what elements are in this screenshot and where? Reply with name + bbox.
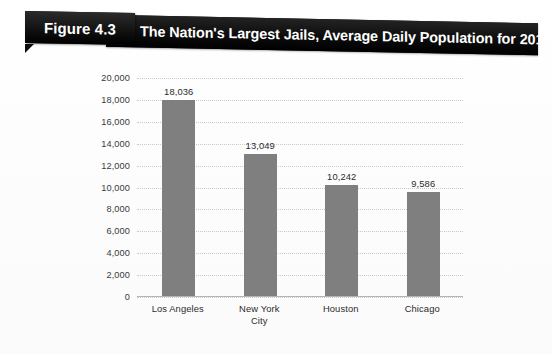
figure-banner: The Nation's Largest Jails, Average Dail… [0,0,552,64]
y-axis-tick: 4,000 [107,248,131,258]
y-axis-tick: 12,000 [101,161,130,171]
x-axis-line [137,296,463,297]
y-axis-tick: 2,000 [107,270,131,280]
y-axis-tick: 8,000 [107,204,131,214]
y-axis-tick: 10,000 [101,183,130,193]
banner-figure-tab: Figure 4.3 [25,11,135,45]
y-axis-tick-labels: 02,0004,0006,0008,00010,00012,00014,0001… [70,78,130,297]
bar-rect [244,154,277,297]
bar-rect [407,192,440,297]
bar[interactable]: 9,586 [407,192,440,297]
plot-area: 18,03613,04910,2429,586 [137,78,463,297]
x-axis-category-labels: Los AngelesNew York CityHoustonChicago [137,303,463,343]
y-axis-tick: 0 [125,292,130,302]
figure-title: The Nation's Largest Jails, Average Dail… [106,15,538,56]
x-axis-category: New York City [219,303,301,326]
figure-number-label: Figure 4.3 [25,11,135,45]
banner-title-band: The Nation's Largest Jails, Average Dail… [106,15,538,56]
bar[interactable]: 13,049 [244,154,277,297]
banner-fold-tail [25,44,34,53]
bar-value-label: 18,036 [164,86,193,100]
bar-value-label: 10,242 [327,171,356,185]
bar-rect [162,100,195,297]
x-axis-category: Los Angeles [137,303,219,315]
bar-chart: 02,0004,0006,0008,00010,00012,00014,0001… [0,64,552,354]
bar-value-label: 13,049 [246,140,275,154]
y-axis-tick: 16,000 [101,117,130,127]
y-axis-tick: 20,000 [101,73,130,83]
x-axis-category: Chicago [382,303,464,315]
y-axis-tick: 18,000 [101,95,130,105]
bar-value-label: 9,586 [411,178,435,192]
y-axis-tick: 6,000 [107,226,131,236]
y-axis-tick: 14,000 [101,139,130,149]
x-axis-category: Houston [300,303,382,315]
bar-rect [325,185,358,297]
bar[interactable]: 18,036 [162,100,195,297]
gridline [137,297,463,298]
bar[interactable]: 10,242 [325,185,358,297]
bar-series: 18,03613,04910,2429,586 [137,78,463,297]
